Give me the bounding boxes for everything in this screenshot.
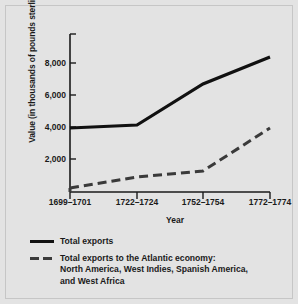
x-tick-label-2: 1722–1724 <box>107 197 167 207</box>
chart-legend: Total exports Total exports to the Atlan… <box>30 236 288 292</box>
legend-label-line-1: Total exports to the Atlantic economy: <box>60 253 216 263</box>
plot-area: Value (in thousands of pounds sterling) … <box>0 0 298 304</box>
series-atlantic-line <box>70 128 270 188</box>
legend-label-line-3: and West Africa <box>60 276 124 286</box>
legend-item-total-exports: Total exports <box>30 236 288 248</box>
legend-dashed-line-swatch-icon <box>30 253 54 264</box>
legend-item-atlantic-economy: Total exports to the Atlantic economy: N… <box>30 253 288 288</box>
x-tick-label-3: 1752–1754 <box>173 197 233 207</box>
legend-label-atlantic-economy: Total exports to the Atlantic economy: N… <box>60 253 248 288</box>
chart-figure: Value (in thousands of pounds sterling) … <box>0 0 298 304</box>
series-total-exports-line <box>70 57 270 128</box>
x-axis-title: Year <box>70 215 280 225</box>
legend-solid-line-swatch-icon <box>30 236 54 247</box>
legend-label-total-exports: Total exports <box>60 236 113 248</box>
x-tick-label-4: 1772–1774 <box>240 197 298 207</box>
legend-label-line-2: North America, West Indies, Spanish Amer… <box>60 264 248 274</box>
x-tick-label-1: 1699–1701 <box>40 197 100 207</box>
